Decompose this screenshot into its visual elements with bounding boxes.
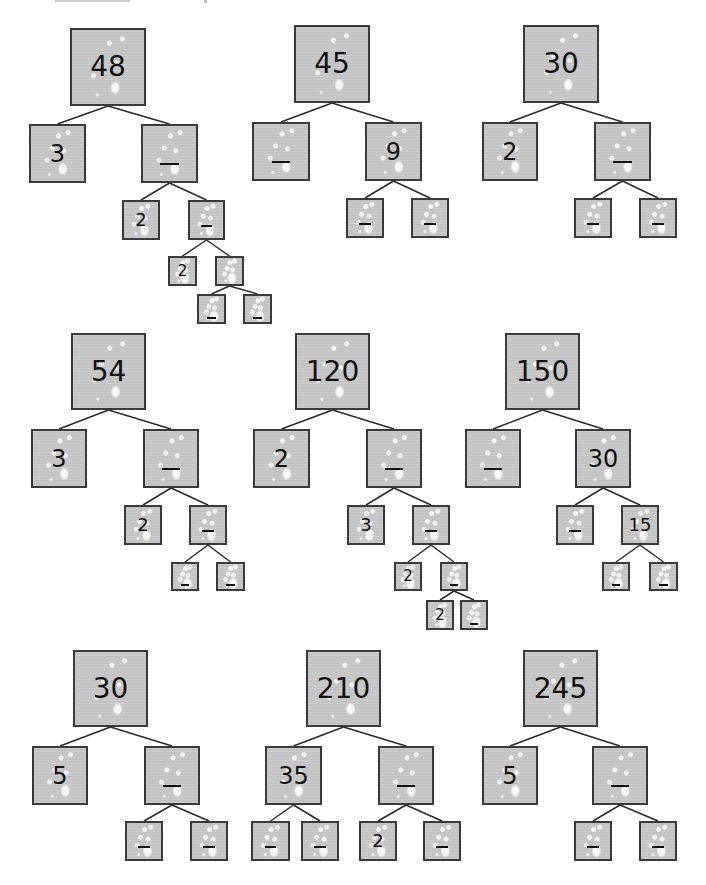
factor-answer-box[interactable] <box>125 821 163 861</box>
factor-answer-box[interactable] <box>411 198 449 238</box>
factor-answer-box[interactable] <box>594 122 651 181</box>
factor-answer-box[interactable] <box>465 429 521 488</box>
branch-line <box>208 545 231 562</box>
factor-given-box: 3 <box>347 505 385 545</box>
factor-answer-box[interactable] <box>602 562 630 591</box>
factor-given-box: 2 <box>124 505 162 545</box>
factor-value: 2 <box>403 569 413 584</box>
branch-line <box>172 805 209 821</box>
branch-line <box>366 488 394 505</box>
factor-answer-box[interactable] <box>251 821 290 861</box>
answer-blank-line <box>201 225 212 227</box>
answer-blank-line <box>162 468 180 470</box>
factor-answer-box[interactable] <box>639 821 677 861</box>
factor-value: 48 <box>90 53 126 81</box>
factor-answer-box[interactable] <box>378 746 434 805</box>
factor-given-box: 2 <box>122 200 160 240</box>
factor-given-box: 2 <box>394 562 422 591</box>
factor-answer-box[interactable] <box>301 821 339 861</box>
factor-answer-box[interactable] <box>141 124 198 183</box>
branch-line <box>561 103 623 122</box>
factor-answer-box[interactable] <box>639 198 677 238</box>
factor-answer-box[interactable] <box>252 122 310 181</box>
branch-line <box>58 106 109 124</box>
factor-value: 35 <box>278 764 309 788</box>
header-fragment-mark <box>204 0 207 3</box>
factor-answer-box[interactable] <box>574 198 612 238</box>
branch-line <box>143 488 171 505</box>
branch-line <box>207 240 230 256</box>
factor-answer-box[interactable] <box>190 821 228 861</box>
factor-tree-root: 45 <box>294 25 370 103</box>
answer-blank-line <box>484 468 502 470</box>
factor-answer-box[interactable] <box>215 256 244 286</box>
branch-line <box>111 727 173 746</box>
factor-answer-box[interactable] <box>189 505 227 545</box>
factor-value: 3 <box>360 516 371 534</box>
factor-answer-box[interactable] <box>216 562 245 591</box>
factor-answer-box[interactable] <box>440 562 468 591</box>
answer-blank-line <box>203 846 215 848</box>
factor-value: 5 <box>502 764 517 788</box>
header-fragment-rule <box>55 0 130 2</box>
factor-value: 245 <box>534 675 587 703</box>
factor-tree-root: 30 <box>73 650 148 727</box>
factor-tree-root: 120 <box>295 333 370 410</box>
answer-blank-line <box>424 223 436 225</box>
factor-answer-box[interactable] <box>592 746 648 805</box>
answer-blank-line <box>611 785 629 787</box>
factor-value: 2 <box>135 211 146 229</box>
branch-line <box>454 591 474 600</box>
branch-line <box>344 727 407 746</box>
factor-tree-root: 48 <box>70 28 146 106</box>
branch-line <box>616 545 640 562</box>
branch-line <box>640 545 664 562</box>
answer-blank-line <box>272 161 290 163</box>
factor-tree-root: 245 <box>523 650 598 727</box>
branch-line <box>59 410 109 429</box>
branch-line <box>543 410 604 429</box>
factor-given-box: 2 <box>426 600 454 630</box>
branch-line <box>493 410 543 429</box>
factor-answer-box[interactable] <box>423 821 461 861</box>
branch-line <box>394 181 431 198</box>
answer-blank-line <box>207 317 216 319</box>
answer-blank-line <box>202 530 214 532</box>
factor-answer-box[interactable] <box>556 505 594 545</box>
factor-value: 3 <box>51 447 66 471</box>
answer-blank-line <box>470 623 478 625</box>
factor-given-box: 2 <box>168 256 197 286</box>
factor-answer-box[interactable] <box>188 200 225 240</box>
branch-line <box>406 805 442 821</box>
branch-line <box>620 805 658 821</box>
answer-blank-line <box>425 530 437 532</box>
answer-blank-line <box>659 584 668 586</box>
factor-given-box: 5 <box>482 746 538 805</box>
branch-line <box>593 805 620 821</box>
factor-answer-box[interactable] <box>243 294 272 324</box>
factor-given-box: 35 <box>265 746 322 805</box>
answer-blank-line <box>226 584 235 586</box>
branch-line <box>170 183 207 200</box>
branch-line <box>144 805 172 821</box>
factor-answer-box[interactable] <box>171 562 199 591</box>
factor-answer-box[interactable] <box>649 562 678 591</box>
factor-tree-root: 150 <box>505 333 580 410</box>
factor-answer-box[interactable] <box>574 821 612 861</box>
branch-line <box>185 545 208 562</box>
factor-value: 120 <box>306 358 359 386</box>
branch-line <box>378 805 406 821</box>
branch-line <box>561 727 621 746</box>
factor-answer-box[interactable] <box>460 600 488 630</box>
answer-blank-line <box>652 846 664 848</box>
factor-answer-box[interactable] <box>412 505 450 545</box>
factor-value: 2 <box>502 140 517 164</box>
answer-blank-line <box>359 223 371 225</box>
factor-answer-box[interactable] <box>346 198 384 238</box>
factor-value: 2 <box>274 447 289 471</box>
factor-answer-box[interactable] <box>197 294 226 324</box>
factor-answer-box[interactable] <box>366 429 422 488</box>
factor-answer-box[interactable] <box>143 429 199 488</box>
branch-line <box>183 240 207 256</box>
factor-answer-box[interactable] <box>144 746 200 805</box>
